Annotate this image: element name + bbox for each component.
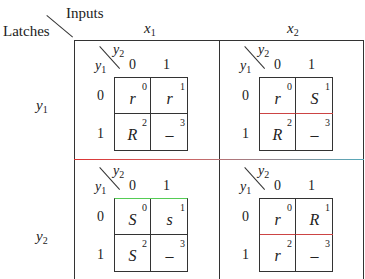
kmap-y1-x2: y2 y1 0 1 0 1 r0 S1 R2 –3 <box>237 42 365 157</box>
kmap-col-var: y2 <box>258 42 269 59</box>
kmap-y2-x2: y2 y1 0 1 0 1 r0 R1 r2 –3 <box>237 163 365 278</box>
inputs-label: Inputs <box>66 5 104 22</box>
kmap-row-var: y1 <box>240 58 251 75</box>
kmap-col-1: 1 <box>308 178 315 194</box>
kmap-cell-0: r0 <box>260 199 296 235</box>
kmap-cell-1: R1 <box>296 199 333 235</box>
kmap-cell-2: r2 <box>260 235 296 272</box>
kmap-row-1: 1 <box>97 126 104 142</box>
kmap-col-var: y2 <box>113 42 124 59</box>
kmap-col-1: 1 <box>163 178 170 194</box>
kmap-cell-2: R2 <box>260 114 296 151</box>
kmap-cell-3: –3 <box>296 235 333 272</box>
kmap-col-1: 1 <box>308 57 315 73</box>
kmap-col-0: 0 <box>274 178 281 194</box>
kmap-row-1: 1 <box>242 126 249 142</box>
kmap-row-0: 0 <box>97 88 104 104</box>
kmap-row-var: y1 <box>95 179 106 196</box>
kmap-grid: S0 s1 S2 –3 <box>114 198 188 272</box>
kmap-cell-1: S1 <box>296 78 333 114</box>
kmap-col-var: y2 <box>113 163 124 180</box>
column-header-x1: x1 <box>144 20 156 38</box>
kmap-cell-3: –3 <box>296 114 333 151</box>
kmap-col-0: 0 <box>129 178 136 194</box>
kmap-col-1: 1 <box>163 57 170 73</box>
kmap-col-0: 0 <box>129 57 136 73</box>
kmap-cell-0: r0 <box>260 78 296 114</box>
kmap-row-0: 0 <box>242 88 249 104</box>
kmap-cell-2: R2 <box>115 114 151 151</box>
kmap-cell-3: –3 <box>151 114 188 151</box>
kmap-row-0: 0 <box>97 209 104 225</box>
kmap-row-1: 1 <box>97 247 104 263</box>
kmap-row-var: y1 <box>240 179 251 196</box>
row-header-y2: y2 <box>36 228 48 246</box>
kmap-cell-0: S0 <box>115 199 151 235</box>
kmap-cell-3: –3 <box>151 235 188 272</box>
kmap-row-0: 0 <box>242 209 249 225</box>
kmap-row-1: 1 <box>242 247 249 263</box>
table-row-divider <box>74 159 364 160</box>
kmap-col-var: y2 <box>258 163 269 180</box>
kmap-grid: r0 R1 r2 –3 <box>259 198 333 272</box>
latches-label: Latches <box>3 23 50 40</box>
column-header-x2: x2 <box>287 20 299 38</box>
kmap-grid: r0 S1 R2 –3 <box>259 77 333 151</box>
kmap-cell-2: S2 <box>115 235 151 272</box>
kmap-row-var: y1 <box>95 58 106 75</box>
kmap-col-0: 0 <box>274 57 281 73</box>
kmap-cell-0: r0 <box>115 78 151 114</box>
kmap-grid: r0 r1 R2 –3 <box>114 77 188 151</box>
kmap-cell-1: r1 <box>151 78 188 114</box>
kmap-cell-1: s1 <box>151 199 188 235</box>
row-header-y1: y1 <box>36 97 48 115</box>
